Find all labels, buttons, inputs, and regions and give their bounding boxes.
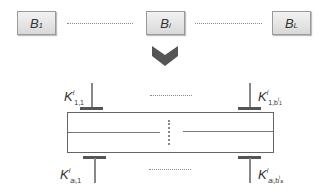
- key-sub-sub: 1: [279, 100, 282, 106]
- block-bl-label: B: [285, 16, 294, 31]
- dotted-connector-left: [67, 23, 133, 24]
- pin-stem-bottom-right: [249, 158, 251, 183]
- pin-stem-bottom-left: [94, 158, 96, 183]
- pin-bar-top-right: [238, 107, 261, 110]
- key-label-bottom-left: Kiai,1: [60, 167, 81, 184]
- pin-stem-top-left: [91, 83, 93, 109]
- block-b1-label: B: [30, 16, 39, 31]
- key-sub: 1,bi1: [268, 99, 282, 106]
- key-sub: ai,1: [70, 177, 81, 184]
- block-bi-subscript: i: [169, 21, 171, 30]
- dotted-connector-right: [195, 23, 262, 24]
- block-bl-subscript: L: [294, 21, 298, 30]
- key-sup: i: [267, 89, 269, 96]
- body-vertical-dots: [168, 120, 170, 145]
- key-sup: i: [69, 167, 71, 174]
- block-b1-subscript: 1: [39, 21, 43, 30]
- pin-bar-top-left: [80, 107, 103, 110]
- key-sub-text: 1,b: [268, 99, 278, 106]
- key-sup: i: [73, 89, 75, 96]
- key-sub-tail: ,1: [75, 177, 81, 184]
- key-sub: ai,bia: [268, 177, 283, 184]
- block-b1: B1: [17, 11, 56, 35]
- body-midline-left: [68, 132, 160, 133]
- key-sub: 1,1: [74, 99, 84, 106]
- key-base: K: [64, 89, 73, 104]
- chevron-down-icon: [152, 46, 178, 66]
- key-base: K: [258, 167, 267, 182]
- pin-stem-top-right: [249, 83, 251, 109]
- key-label-top-right: Ki1,bi1: [258, 89, 282, 106]
- dotted-top-pins: [150, 95, 192, 96]
- block-bl: BL: [272, 11, 311, 35]
- key-label-top-left: Ki1,1: [64, 89, 84, 106]
- key-sub-sup: i: [278, 96, 279, 102]
- block-bi: Bi: [146, 11, 185, 35]
- block-bi-label: B: [160, 16, 169, 31]
- key-tail-sub: a: [280, 178, 283, 184]
- key-label-bottom-right: Kiai,bia: [258, 167, 283, 184]
- key-base: K: [258, 89, 267, 104]
- body-midline-right: [183, 131, 273, 132]
- dotted-bottom-pins: [149, 169, 191, 170]
- key-base: K: [60, 167, 69, 182]
- key-sup: i: [267, 167, 269, 174]
